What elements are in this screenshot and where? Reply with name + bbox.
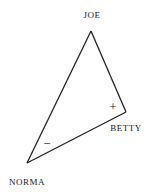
plus-sign-icon: +: [109, 100, 116, 113]
balance-triangle-diagram: JOE BETTY NORMA + −: [0, 0, 152, 192]
node-label-norma: NORMA: [9, 177, 45, 187]
edge-norma-betty: [27, 112, 126, 163]
node-label-joe: JOE: [84, 10, 101, 20]
triangle-graphic: [0, 0, 152, 192]
minus-sign-icon: −: [43, 137, 50, 150]
node-label-betty: BETTY: [110, 123, 142, 133]
edge-joe-norma: [27, 31, 91, 163]
